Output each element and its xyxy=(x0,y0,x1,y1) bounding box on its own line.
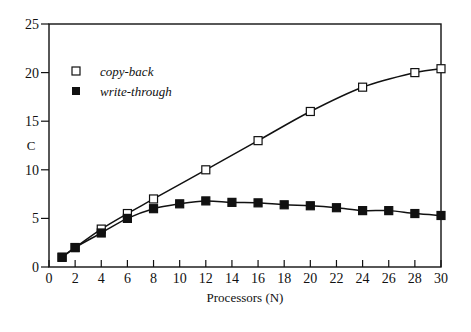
legend-label-write-through: write-through xyxy=(100,84,172,99)
copy-back-point xyxy=(254,137,262,145)
write-through-point xyxy=(385,207,393,215)
svg-text:5: 5 xyxy=(32,211,39,226)
svg-text:28: 28 xyxy=(408,271,422,286)
svg-text:25: 25 xyxy=(25,17,39,32)
copy-back-point xyxy=(150,195,158,203)
write-through-point xyxy=(150,205,158,213)
write-through-point xyxy=(97,229,105,237)
write-through-point xyxy=(280,201,288,209)
write-through-point xyxy=(123,214,131,222)
legend-label-copy-back: copy-back xyxy=(100,64,154,79)
svg-text:2: 2 xyxy=(72,271,79,286)
write-through-point xyxy=(254,199,262,207)
svg-text:22: 22 xyxy=(329,271,343,286)
svg-text:20: 20 xyxy=(303,271,317,286)
write-through-point xyxy=(359,207,367,215)
write-through-point xyxy=(71,244,79,252)
svg-text:10: 10 xyxy=(25,163,39,178)
svg-text:20: 20 xyxy=(25,66,39,81)
write-through-point xyxy=(176,200,184,208)
svg-text:4: 4 xyxy=(98,271,105,286)
write-through-point xyxy=(411,210,419,218)
filled-square-marker-icon xyxy=(72,87,80,95)
svg-text:12: 12 xyxy=(199,271,213,286)
svg-text:14: 14 xyxy=(225,271,239,286)
open-square-marker-icon xyxy=(72,67,80,75)
y-axis-label: C xyxy=(27,138,36,153)
write-through-point xyxy=(202,197,210,205)
plot-frame xyxy=(49,24,441,267)
x-axis-label: Processors (N) xyxy=(207,290,284,305)
copy-back-point xyxy=(202,166,210,174)
copy-back-point xyxy=(306,107,314,115)
chart: 024681012141618202224262830 0510152025 P… xyxy=(0,0,471,332)
svg-text:24: 24 xyxy=(356,271,370,286)
svg-text:0: 0 xyxy=(46,271,53,286)
write-through-point xyxy=(437,211,445,219)
copy-back-point xyxy=(359,83,367,91)
copy-back-point xyxy=(437,65,445,73)
svg-text:26: 26 xyxy=(382,271,396,286)
copy-back-point xyxy=(411,69,419,77)
svg-text:16: 16 xyxy=(251,271,265,286)
write-through-point xyxy=(306,202,314,210)
svg-text:0: 0 xyxy=(32,260,39,275)
write-through-point xyxy=(228,198,236,206)
svg-text:8: 8 xyxy=(150,271,157,286)
x-axis-ticks: 024681012141618202224262830 xyxy=(46,260,449,286)
svg-text:15: 15 xyxy=(25,114,39,129)
write-through-point xyxy=(58,253,66,261)
svg-text:30: 30 xyxy=(434,271,448,286)
svg-text:6: 6 xyxy=(124,271,131,286)
svg-text:10: 10 xyxy=(173,271,187,286)
svg-text:18: 18 xyxy=(277,271,291,286)
legend: copy-back write-through xyxy=(72,64,172,99)
write-through-point xyxy=(332,204,340,212)
